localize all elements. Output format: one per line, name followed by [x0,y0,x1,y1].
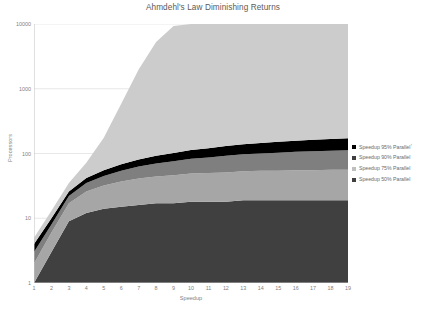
x-tick-label: 18 [328,285,334,291]
x-tick-label: 9 [172,285,175,291]
legend-swatch-icon [352,178,356,182]
y-tick-label: 1000 [19,86,31,92]
legend-item[interactable]: Speedup 75% Parallel [352,163,426,174]
legend-label: Speedup 90% Parallel [359,155,410,160]
legend-label: Speedup 75% Parallel [359,166,410,171]
legend-item[interactable]: Speedup 50% Parallel [352,174,426,185]
legend-item[interactable]: Speedup 90% Parallel [352,152,426,163]
x-tick-label: 19 [345,285,351,291]
x-tick-label: 7 [137,285,140,291]
chart-title: Ahmdehl's Law Diminishing Returns [0,3,426,12]
y-tick-label: 10000 [16,21,31,27]
legend-label: Speedup 95% Parallel↑ [359,143,412,150]
x-tick-label: 3 [67,285,70,291]
x-tick-label: 16 [293,285,299,291]
x-tick-label: 1 [33,285,36,291]
legend-item[interactable]: Speedup 95% Parallel↑ [352,141,426,152]
x-axis-title: Speedup [34,295,348,301]
x-tick-label: 6 [120,285,123,291]
x-tick-label: 12 [223,285,229,291]
x-tick-label: 15 [275,285,281,291]
chart-legend: Speedup 95% Parallel↑Speedup 90% Paralle… [352,141,426,185]
y-tick-label: 10 [25,215,31,221]
chart-container: Ahmdehl's Law Diminishing Returns Proces… [0,0,426,311]
x-tick-label: 2 [50,285,53,291]
y-tick-label: 1 [28,280,31,286]
chart-plot-svg [34,24,348,283]
legend-swatch-icon [352,145,356,149]
x-tick-label: 5 [102,285,105,291]
x-tick-label: 11 [206,285,212,291]
legend-label: Speedup 50% Parallel [359,177,410,182]
x-tick-label: 10 [188,285,194,291]
y-tick-label: 100 [22,151,31,157]
y-axis-tick-labels: 110100100010000 [0,24,31,283]
legend-swatch-icon [352,156,356,160]
legend-superscript: ↑ [410,142,412,147]
x-tick-label: 13 [240,285,246,291]
x-tick-label: 8 [155,285,158,291]
plot-area [34,24,348,283]
x-tick-label: 17 [310,285,316,291]
x-tick-label: 4 [85,285,88,291]
legend-swatch-icon [352,167,356,171]
x-tick-label: 14 [258,285,264,291]
x-axis-tick-labels: 12345678910111213141516171819 [34,285,348,295]
